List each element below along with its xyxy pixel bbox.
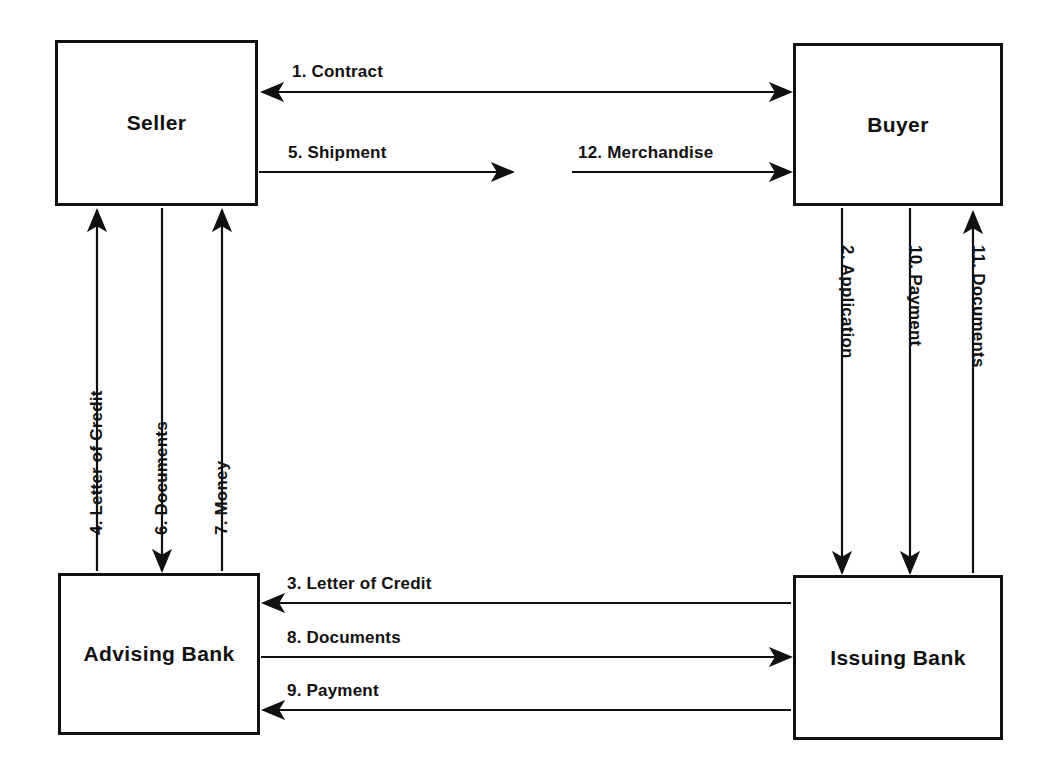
entity-label-buyer: Buyer	[867, 113, 929, 137]
entity-label-seller: Seller	[127, 111, 187, 135]
flow-label-8-documents: 8. Documents	[287, 629, 401, 646]
flow-label-3-letter-of-credit: 3. Letter of Credit	[287, 575, 432, 592]
flow-label-11-documents: 11. Documents	[970, 245, 987, 368]
entity-box-advising-bank: Advising Bank	[58, 573, 260, 735]
letter-of-credit-diagram: Seller Buyer Advising Bank Issuing Bank …	[0, 0, 1053, 784]
flow-label-5-shipment: 5. Shipment	[288, 144, 387, 161]
flow-label-6-documents: 6. Documents	[153, 421, 170, 535]
flow-label-10-payment: 10. Payment	[907, 245, 924, 346]
entity-label-advising-bank: Advising Bank	[83, 642, 234, 666]
entity-label-issuing-bank: Issuing Bank	[830, 646, 966, 670]
flow-label-7-money: 7. Money	[213, 461, 230, 535]
flow-label-4-letter-of-credit: 4. Letter of Credit	[88, 390, 105, 535]
flow-label-1-contract: 1. Contract	[292, 63, 383, 80]
flow-label-12-merchandise: 12. Merchandise	[578, 144, 713, 161]
flow-label-9-payment: 9. Payment	[287, 682, 379, 699]
entity-box-issuing-bank: Issuing Bank	[793, 575, 1003, 740]
flow-label-2-application: 2. Application	[839, 245, 856, 359]
entity-box-seller: Seller	[55, 40, 258, 206]
entity-box-buyer: Buyer	[793, 43, 1003, 206]
